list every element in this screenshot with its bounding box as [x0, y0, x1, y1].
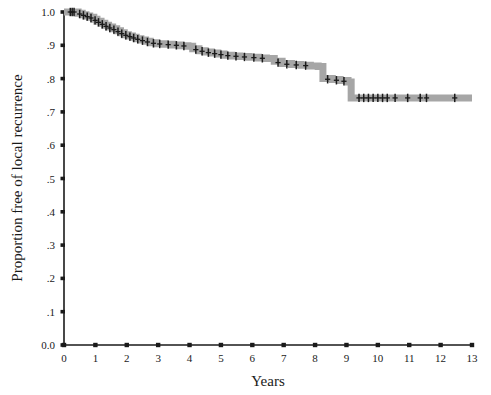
survival-curve-chart: 0.0.1.2.3.4.5.6.7.8.91.0 012345678910111… [0, 0, 491, 395]
x-axis-tick-label: 6 [250, 352, 256, 364]
x-axis-tick-label: 9 [344, 352, 350, 364]
x-axis-tick-label: 8 [312, 352, 318, 364]
y-axis-tick-label: .6 [47, 139, 56, 151]
y-axis-tick-label: 0.0 [41, 339, 55, 351]
y-axis-tick-label: .4 [47, 206, 56, 218]
x-axis-tick-label: 5 [218, 352, 224, 364]
y-axis-tick-label: .5 [47, 173, 56, 185]
x-axis-title: Years [251, 373, 285, 389]
y-axis-tick-label: .9 [47, 39, 56, 51]
y-axis-title: Proportion free of local recurrence [9, 74, 25, 282]
x-axis-tick-label: 11 [404, 352, 415, 364]
x-axis-tick-label: 0 [61, 352, 67, 364]
x-axis-tick-label: 4 [187, 352, 193, 364]
y-axis-tick-label: .2 [47, 272, 55, 284]
y-axis-tick-label: .3 [47, 239, 56, 251]
x-axis-tick-label: 12 [435, 352, 446, 364]
figure-container: 0.0.1.2.3.4.5.6.7.8.91.0 012345678910111… [0, 0, 491, 395]
x-axis-tick-label: 2 [124, 352, 130, 364]
x-axis-tick-label: 13 [467, 352, 479, 364]
y-axis-tick-label: .8 [47, 73, 56, 85]
x-axis-tick-label: 10 [372, 352, 384, 364]
x-axis-tick-label: 7 [281, 352, 287, 364]
x-axis-tick-label: 3 [155, 352, 161, 364]
y-axis-tick-label: 1.0 [41, 6, 55, 18]
y-axis-tick-label: .7 [47, 106, 56, 118]
x-axis-tick-label: 1 [93, 352, 99, 364]
y-axis-tick-label: .1 [47, 306, 55, 318]
